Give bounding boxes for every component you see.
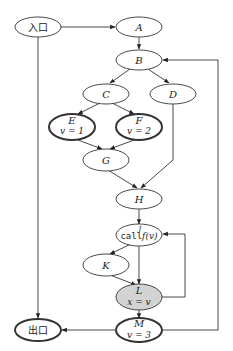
edge-C-E [78, 103, 100, 114]
edges [38, 27, 218, 330]
label-K: K [101, 260, 110, 271]
edge-E-G [78, 140, 102, 149]
label-H: H [134, 194, 144, 205]
label-M: M [133, 318, 145, 329]
label-J-call-kw: call [120, 231, 142, 241]
label-J-fn: f(v) [141, 231, 158, 241]
label-F: F [135, 115, 144, 126]
label-M-sub: v = 3 [127, 330, 151, 340]
nodes [15, 17, 196, 342]
label-L-sub: x = v [127, 297, 150, 307]
label-D: D [168, 89, 177, 100]
label-G: G [102, 155, 110, 166]
edge-G-H [108, 170, 137, 188]
label-F-sub: v = 2 [127, 126, 151, 136]
edge-F-G [110, 140, 134, 149]
label-C: C [102, 89, 110, 100]
control-flow-graph: 入口 A B C D E v = 1 F v = 2 G H J callf(v… [0, 0, 233, 351]
edge-K-L [110, 275, 136, 285]
label-A: A [134, 22, 142, 33]
label-exit: 出口 [28, 324, 48, 336]
label-entry: 入口 [28, 22, 48, 33]
label-E-sub: v = 1 [60, 126, 84, 136]
edge-L-J [162, 234, 185, 297]
graph-canvas: 入口 A B C D E v = 1 F v = 2 G H J callf(v… [0, 0, 233, 351]
edge-B-C [110, 69, 130, 83]
label-E: E [67, 115, 76, 126]
edge-C-F [112, 103, 134, 114]
edge-B-D [148, 69, 169, 83]
edge-J-K [110, 244, 131, 254]
label-B: B [134, 55, 142, 66]
label-J-call: callf(v) [120, 231, 158, 241]
label-L: L [135, 285, 143, 296]
